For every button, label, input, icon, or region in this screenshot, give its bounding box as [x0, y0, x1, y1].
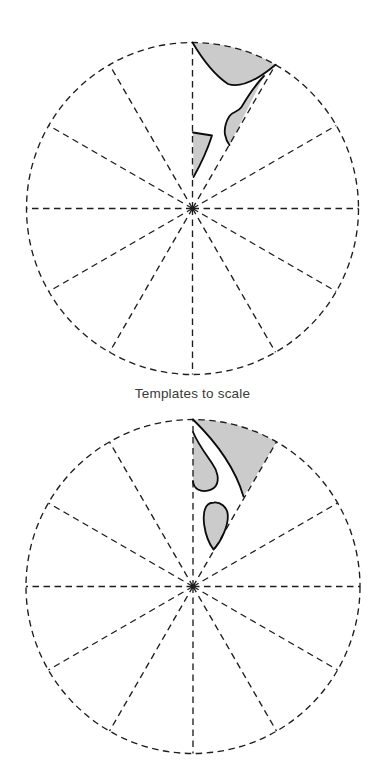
sector-line — [49, 209, 193, 292]
sector-line — [49, 126, 193, 209]
sector-line — [193, 587, 338, 671]
diagram-caption: Templates to scale — [0, 386, 385, 401]
sector-line — [110, 209, 193, 353]
page: Templates to scale — [0, 0, 385, 776]
lower-template-wheel — [26, 420, 360, 754]
sector-line — [193, 587, 277, 732]
sector-line — [193, 209, 276, 353]
sector-line — [110, 442, 194, 587]
sector-line — [48, 503, 193, 587]
gore-template-3-fill — [193, 133, 212, 178]
sector-line — [193, 209, 337, 292]
sector-line — [48, 587, 193, 671]
gore-template-1-fill — [193, 42, 276, 85]
gore-template-2-fill — [225, 76, 264, 145]
sector-line — [193, 126, 337, 209]
upper-template-wheel — [27, 42, 359, 374]
sector-line — [110, 65, 193, 209]
center-dot — [190, 206, 195, 211]
center-dot — [191, 584, 196, 589]
sector-line — [110, 587, 194, 732]
gore-template-6-fill — [204, 502, 228, 549]
